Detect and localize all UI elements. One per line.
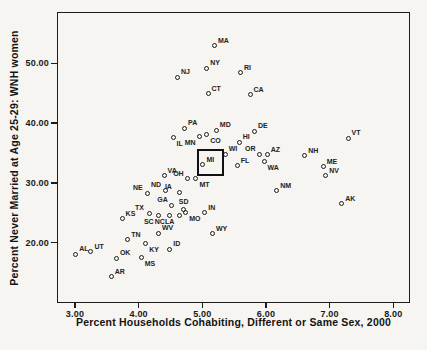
data-point-label-ND: ND (151, 181, 161, 188)
data-point-label-KY: KY (149, 246, 159, 253)
data-point-HI (237, 140, 242, 145)
data-point-label-WY: WY (216, 225, 227, 232)
data-point-label-AL: AL (79, 245, 88, 252)
data-point-MN (197, 134, 202, 139)
x-tick-mark (393, 303, 394, 308)
data-point-PA (182, 126, 187, 131)
data-point-label-FL: FL (241, 157, 250, 164)
data-point-label-VT: VT (352, 129, 361, 136)
x-tick-mark (329, 303, 330, 308)
y-tick-label: 30.00 (8, 178, 49, 188)
data-point-CT (206, 91, 211, 96)
data-point-label-ID: ID (173, 240, 180, 247)
x-tick-mark (265, 303, 266, 308)
data-point-label-MS: MS (145, 260, 156, 267)
y-tick-mark (51, 63, 57, 64)
data-point-label-SC: SC (144, 218, 154, 225)
data-point-label-NM: NM (280, 182, 291, 189)
data-point-AL (73, 252, 78, 257)
x-axis-title: Percent Households Cohabiting, Different… (57, 316, 410, 328)
data-point-label-NC: NC (155, 218, 165, 225)
data-point-label-AK: AK (345, 195, 355, 202)
scatter-plot: Percent Never Married at Age 25-29: WNH … (0, 0, 427, 350)
data-point-IL (171, 135, 176, 140)
data-point-NE (145, 191, 150, 196)
y-tick-mark (51, 122, 57, 123)
data-point-label-UT: UT (94, 243, 103, 250)
data-point-label-IN: IN (208, 204, 215, 211)
data-point-label-NJ: NJ (181, 68, 190, 75)
plot-area (57, 12, 410, 303)
data-point-MD (214, 128, 219, 133)
data-point-label-MO: MO (189, 215, 200, 222)
data-point-WV (156, 231, 161, 236)
data-point-label-CT: CT (212, 85, 221, 92)
data-point-NY (204, 66, 209, 71)
data-point-label-LA: LA (165, 218, 174, 225)
y-tick-label: 20.00 (8, 238, 49, 248)
data-point-label-ME: ME (327, 158, 338, 165)
x-tick-label: 6.00 (248, 309, 284, 319)
x-tick-label: 8.00 (375, 309, 411, 319)
data-point-label-DE: DE (258, 122, 268, 129)
data-point-label-TN: TN (131, 231, 140, 238)
data-point-OK (114, 256, 119, 261)
data-point-label-GA: GA (157, 196, 168, 203)
x-tick-label: 4.00 (121, 309, 157, 319)
data-point-label-TX: TX (135, 204, 144, 211)
x-tick-label: 5.00 (184, 309, 220, 319)
x-tick-mark (202, 303, 203, 308)
x-tick-label: 7.00 (312, 309, 348, 319)
data-point-label-AZ: AZ (271, 146, 280, 153)
data-point-DE (252, 129, 257, 134)
data-point-TX (147, 211, 152, 216)
data-point-label-NV: NV (329, 167, 339, 174)
data-point-label-OR: OR (245, 145, 256, 152)
data-point-label-SD: SD (179, 198, 189, 205)
y-tick-mark (51, 182, 57, 183)
data-point-label-MD: MD (220, 121, 231, 128)
data-point-label-OK: OK (120, 249, 131, 256)
data-point-NJ (175, 75, 180, 80)
data-point-NC (167, 213, 172, 218)
data-point-label-IL: IL (177, 140, 183, 147)
data-point-label-NY: NY (210, 59, 220, 66)
data-point-label-OH: OH (173, 170, 184, 177)
data-point-IA (177, 190, 182, 195)
x-tick-mark (74, 303, 75, 308)
data-point-MS (139, 255, 144, 260)
highlight-square-marker (197, 149, 224, 176)
data-point-label-AR: AR (115, 268, 125, 275)
data-point-label-MN: MN (185, 139, 196, 146)
data-point-label-NH: NH (308, 147, 318, 154)
data-point-label-MT: MT (199, 181, 209, 188)
data-point-label-WI: WI (229, 145, 238, 152)
data-point-label-NE: NE (133, 184, 143, 191)
data-point-OR (257, 152, 262, 157)
data-point-GA (169, 203, 174, 208)
data-point-label-WA: WA (268, 164, 279, 171)
data-point-label-CA: CA (254, 86, 264, 93)
data-point-KS (120, 216, 125, 221)
data-point-label-KS: KS (126, 210, 136, 217)
y-tick-mark (51, 242, 57, 243)
data-point-KY (143, 241, 148, 246)
data-point-label-HI: HI (243, 133, 250, 140)
y-tick-label: 40.00 (8, 118, 49, 128)
data-point-label-IA: IA (165, 183, 172, 190)
data-point-label-PA: PA (188, 119, 197, 126)
data-point-label-RI: RI (244, 64, 251, 71)
x-tick-label: 3.00 (57, 309, 93, 319)
data-point-VT (346, 136, 351, 141)
data-point-FL (235, 163, 240, 168)
data-point-VA (162, 173, 167, 178)
data-point-label-MA: MA (218, 37, 229, 44)
y-tick-label: 50.00 (8, 58, 49, 68)
data-point-label-CO: CO (210, 137, 221, 144)
x-tick-mark (138, 303, 139, 308)
